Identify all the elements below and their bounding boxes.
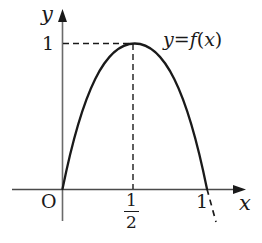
y-axis-label: y (41, 4, 53, 25)
curve-label-equals: = (174, 28, 190, 50)
curve-label-open-paren: ( (197, 28, 204, 50)
y-tick-label-1: 1 (42, 34, 54, 53)
curve-label-x: x (204, 28, 215, 50)
curve-label-close-paren: ) (215, 28, 222, 50)
function-curve-continuation (207, 189, 216, 222)
x-tick-label-1: 1 (196, 192, 208, 211)
origin-label: O (41, 192, 57, 211)
fraction-numerator: 1 (124, 192, 139, 211)
curve-label: y=f(x) (163, 30, 222, 49)
x-axis-label: x (239, 193, 251, 214)
function-graph-figure: y x O 1 1 1 2 y=f(x) (0, 0, 262, 243)
fraction-one-half: 1 2 (124, 192, 139, 231)
function-curve (63, 44, 208, 190)
x-tick-label-one-half: 1 2 (124, 192, 139, 231)
fraction-denominator: 2 (124, 213, 139, 232)
curve-label-y: y (163, 28, 174, 50)
curve-label-f: f (190, 28, 197, 50)
y-axis-arrowhead (58, 9, 67, 22)
